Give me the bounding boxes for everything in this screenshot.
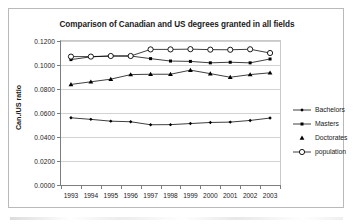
data-point-marker [148,47,153,52]
series-bachelors [69,116,271,126]
data-point-marker [128,53,133,58]
data-point-marker [89,118,92,121]
x-tick-mark [200,185,201,189]
legend-label: Masters [315,117,339,131]
y-axis-title: Can./US ratio [14,78,23,138]
legend-marker-diamond-filled [292,103,312,117]
data-point-marker [169,60,172,63]
legend-item-population[interactable]: population [292,145,353,159]
y-tick-label: 0.0800 [34,86,55,93]
data-point-marker [189,122,192,125]
legend-label: Doctorates [315,131,347,145]
y-tick-label: 0.0000 [34,182,55,189]
plot-area: 0.00000.02000.04000.06000.08000.10000.12… [60,40,281,186]
legend-label: population [315,145,346,159]
legend-marker-square-filled [292,117,312,131]
x-tick-mark [220,185,221,189]
series-doctorates [69,68,273,86]
data-point-marker [69,116,72,119]
data-point-marker [299,149,304,154]
data-point-marker [248,119,251,122]
y-tick-label: 0.0400 [34,134,55,141]
chart-frame: Comparison of Canadian and US degrees gr… [8,8,344,208]
data-point-marker [229,61,232,64]
x-tick-label: 1997 [143,192,157,199]
x-tick-mark [121,185,122,189]
legend-label: Bachelors [315,103,345,117]
data-point-marker [129,120,132,123]
data-point-marker [228,47,233,52]
x-tick-mark [260,185,261,189]
data-point-marker [267,50,272,55]
data-point-marker [68,54,73,59]
legend-item-masters[interactable]: Masters [292,117,353,131]
data-point-marker [300,108,303,111]
x-tick-label: 2002 [243,192,257,199]
data-point-marker [249,61,252,64]
x-tick-label: 1993 [64,192,78,199]
legend-marker-circle-open [292,145,312,159]
x-tick-label: 1999 [183,192,197,199]
data-point-marker [208,47,213,52]
x-tick-mark [280,185,281,189]
data-point-marker [169,123,172,126]
data-point-marker [88,54,93,59]
x-tick-label: 2001 [223,192,237,199]
y-tick-label: 0.1000 [34,62,55,69]
x-tick-mark [81,185,82,189]
data-point-marker [109,119,112,122]
x-tick-mark [240,185,241,189]
data-point-marker [149,123,152,126]
chart-title: Comparison of Canadian and US degrees gr… [9,20,345,29]
x-tick-mark [141,185,142,189]
y-tick-label: 0.0200 [34,158,55,165]
chart-legend: BachelorsMastersDoctoratespopulation [292,103,353,159]
x-tick-label: 2003 [263,192,277,199]
data-point-marker [149,57,152,60]
x-tick-label: 2000 [203,192,217,199]
x-tick-mark [101,185,102,189]
x-tick-label: 1994 [84,192,98,199]
legend-item-doctorates[interactable]: Doctorates [292,131,353,145]
data-point-marker [269,58,272,61]
scan-artifact [10,217,343,220]
data-point-marker [188,68,193,72]
y-tick-label: 0.0600 [34,110,55,117]
y-tick-label: 0.1200 [34,38,55,45]
x-tick-mark [161,185,162,189]
legend-item-bachelors[interactable]: Bachelors [292,103,353,117]
data-point-marker [168,47,173,52]
series-layer [61,41,280,185]
x-tick-mark [61,185,62,189]
x-tick-label: 1998 [163,192,177,199]
data-point-marker [209,61,212,64]
data-point-marker [301,123,304,126]
series-population [68,47,272,60]
data-point-marker [268,70,273,74]
data-point-marker [268,116,271,119]
x-tick-label: 1996 [123,192,137,199]
data-point-marker [248,47,253,52]
data-point-marker [300,136,305,140]
data-point-marker [229,120,232,123]
data-point-marker [188,47,193,52]
data-point-marker [189,60,192,63]
x-tick-label: 1995 [104,192,118,199]
data-point-marker [108,53,113,58]
legend-marker-triangle-filled [292,131,312,145]
x-tick-mark [180,185,181,189]
data-point-marker [209,121,212,124]
